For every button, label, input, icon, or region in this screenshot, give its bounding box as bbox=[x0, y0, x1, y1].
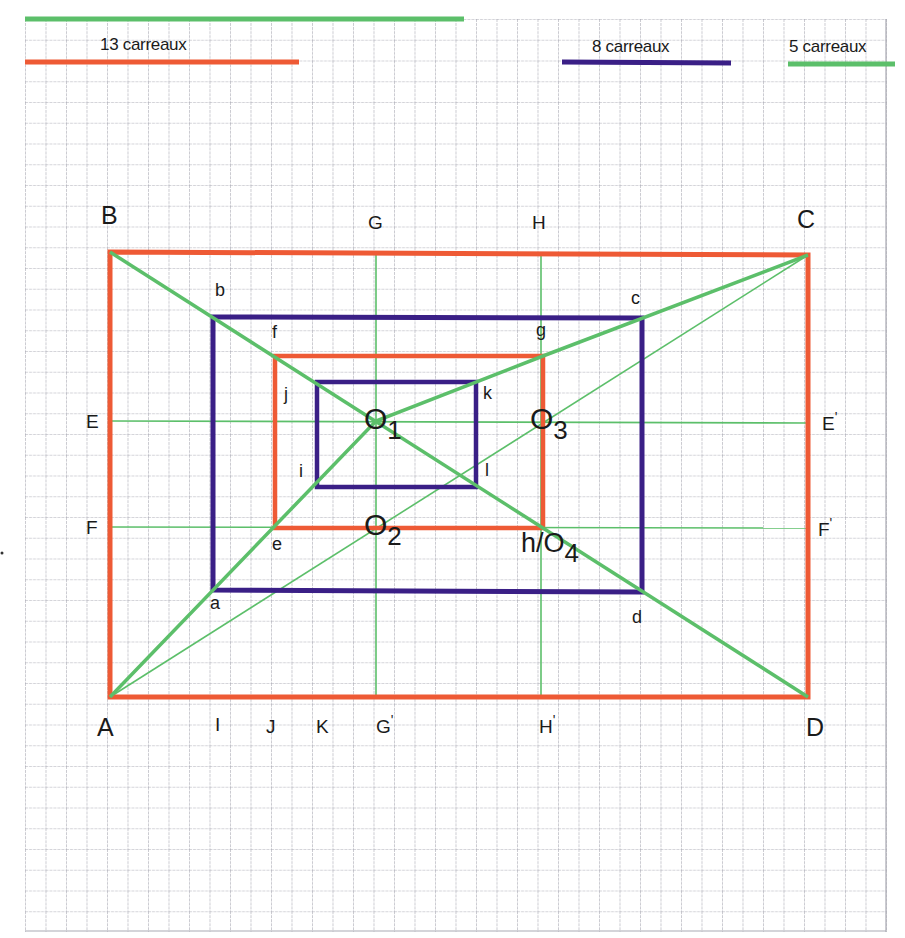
legend-green-label: 5 carreaux bbox=[789, 38, 866, 55]
label-G: G bbox=[368, 213, 383, 232]
label-O1-letter: O bbox=[364, 402, 387, 435]
label-F: F bbox=[86, 518, 98, 537]
label-O4-subscript: 4 bbox=[565, 538, 579, 568]
label-E-prime-letter: E bbox=[822, 413, 835, 434]
label-b: b bbox=[215, 281, 225, 299]
label-A: A bbox=[97, 715, 114, 740]
legend-red-label: 13 carreaux bbox=[100, 36, 186, 53]
label-E-prime: E' bbox=[822, 414, 837, 433]
label-O2-letter: O bbox=[364, 508, 387, 541]
label-F-prime: F' bbox=[818, 520, 832, 539]
label-i: i bbox=[299, 462, 303, 480]
legend-blue-label: 8 carreaux bbox=[592, 38, 669, 55]
label-C: C bbox=[797, 207, 815, 232]
label-O3-letter: O bbox=[530, 402, 553, 435]
label-k: k bbox=[483, 384, 492, 402]
label-G-prime-letter: G bbox=[376, 716, 391, 737]
diagram-canvas bbox=[0, 0, 905, 938]
legend-top-partial-label: 21 carreaux bbox=[240, 0, 326, 3]
label-O2: O2 bbox=[364, 510, 402, 540]
label-a: a bbox=[210, 594, 220, 612]
label-D: D bbox=[806, 715, 824, 740]
label-e: e bbox=[272, 535, 282, 553]
label-G-prime: G' bbox=[376, 717, 393, 736]
label-O3-subscript: 3 bbox=[553, 415, 567, 445]
prime-mark: ' bbox=[830, 515, 833, 531]
label-j: j bbox=[284, 385, 288, 403]
label-J: J bbox=[266, 717, 276, 736]
label-O2-subscript: 2 bbox=[387, 521, 401, 551]
label-F-prime-letter: F bbox=[818, 519, 830, 540]
label-B: B bbox=[101, 203, 118, 228]
label-H-prime: H' bbox=[539, 717, 555, 736]
label-O3: O3 bbox=[530, 404, 568, 434]
graph-paper-grid bbox=[25, 19, 887, 932]
label-l: l bbox=[485, 461, 489, 479]
label-d: d bbox=[632, 608, 642, 626]
stray-dot bbox=[1, 552, 4, 555]
legend-line-blue bbox=[562, 62, 731, 63]
label-g: g bbox=[536, 321, 546, 339]
label-H: H bbox=[532, 213, 546, 232]
label-f: f bbox=[272, 323, 277, 341]
prime-mark: ' bbox=[835, 409, 838, 425]
label-c: c bbox=[631, 289, 640, 307]
label-h-O4-letters: h/O bbox=[521, 528, 565, 558]
label-O1-subscript: 1 bbox=[387, 415, 401, 445]
label-h-O4: h/O4 bbox=[521, 530, 579, 557]
label-O1: O1 bbox=[364, 404, 402, 434]
label-I: I bbox=[215, 715, 220, 734]
label-H-prime-letter: H bbox=[539, 716, 553, 737]
label-E: E bbox=[86, 412, 99, 431]
label-K: K bbox=[316, 717, 329, 736]
